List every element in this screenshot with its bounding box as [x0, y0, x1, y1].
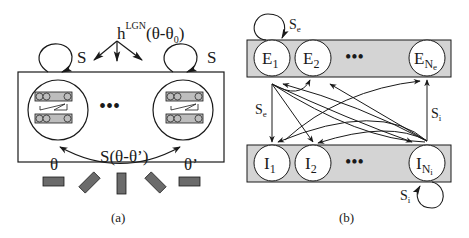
self-coupling-i-label: Si — [400, 188, 411, 205]
cross-connections — [272, 80, 427, 143]
node-i2: I2 — [295, 145, 331, 181]
self-coupling-left-label: S — [77, 48, 86, 67]
hypercolumn-left: S — [28, 44, 88, 140]
node-ini: INi — [409, 145, 445, 181]
panel-a-caption: (a) — [111, 210, 125, 225]
theta-right-label: θ’ — [184, 155, 198, 174]
orientation-units-top — [35, 92, 72, 101]
orientation-stimulus-bars — [43, 172, 200, 194]
orientation-units-bottom — [35, 114, 72, 123]
self-loop-i — [417, 182, 443, 208]
self-loop-e — [254, 14, 284, 40]
panel-a: hLGN(θ-θ0) S — [18, 20, 224, 225]
node-i1: I1 — [254, 145, 290, 181]
orientation-units-top — [166, 92, 203, 101]
node-ene: ENe — [409, 40, 445, 76]
bar-180deg — [179, 177, 200, 186]
lgn-input-label: hLGN(θ-θ0) — [117, 20, 184, 45]
theta-left-label: θ — [50, 155, 58, 174]
panel-b: E1 E2 ••• ENe Se I1 I2 ••• INi Si — [247, 14, 451, 225]
bar-90deg — [117, 173, 126, 194]
self-coupling-e-label: Se — [289, 17, 301, 34]
bar-45deg — [79, 172, 100, 193]
self-coupling-right-label: S — [207, 48, 216, 67]
bar-135deg — [145, 172, 166, 193]
inhibitory-ellipsis: ••• — [345, 152, 364, 172]
bar-0deg — [43, 177, 64, 186]
self-loop-left — [39, 44, 72, 72]
excitatory-ellipsis: ••• — [345, 47, 364, 67]
panel-b-caption: (b) — [339, 210, 354, 225]
e-to-i-label: Se — [255, 102, 267, 119]
hypercolumn-right: S — [153, 44, 216, 140]
orientation-units-bottom — [166, 114, 203, 123]
lgn-input-arrows — [94, 41, 142, 61]
hypercolumn-ellipsis: ••• — [99, 95, 120, 117]
node-e2: E2 — [295, 40, 331, 76]
node-e1: E1 — [254, 40, 290, 76]
i-to-e-label: Si — [431, 106, 442, 123]
diagram-canvas: hLGN(θ-θ0) S — [0, 0, 469, 238]
self-loop-right — [164, 44, 197, 72]
lateral-coupling-label: S(θ-θ’) — [100, 147, 148, 166]
